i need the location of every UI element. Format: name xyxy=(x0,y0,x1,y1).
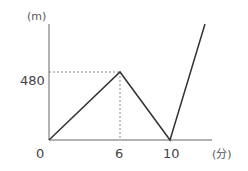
x-axis-unit: (分) xyxy=(212,148,232,161)
y-tick-480: 480 xyxy=(20,73,45,88)
x-tick-6: 6 xyxy=(115,146,123,161)
y-axis-unit: (m) xyxy=(27,10,46,23)
line-chart: (m) 480 0 6 10 (分) xyxy=(0,0,248,171)
x-tick-0: 0 xyxy=(36,146,44,161)
x-tick-10: 10 xyxy=(163,146,180,161)
data-line xyxy=(49,24,205,140)
